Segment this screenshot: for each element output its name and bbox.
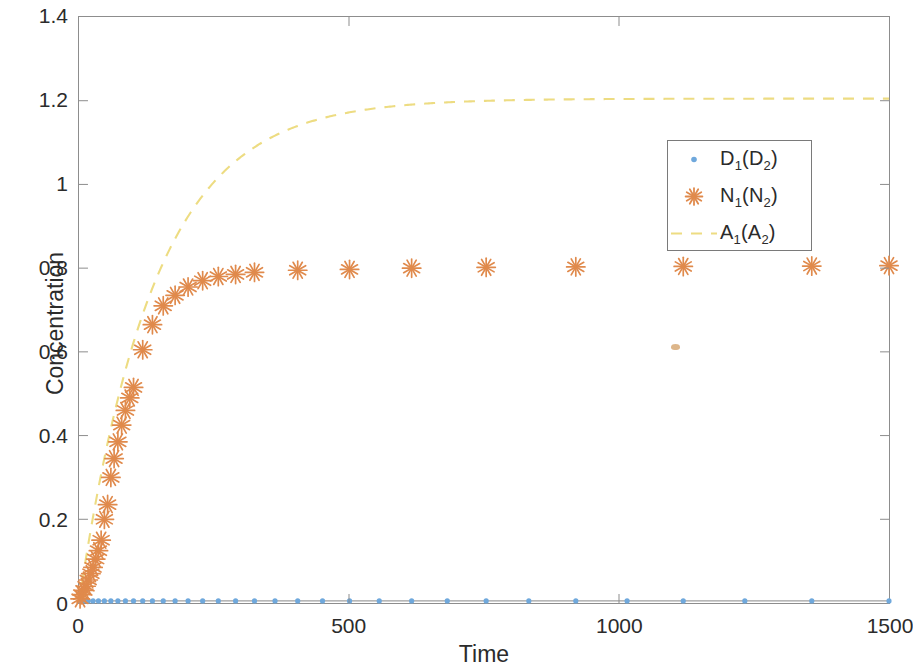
y-tick-label: 0 <box>6 593 68 614</box>
plot-area <box>78 16 890 604</box>
x-tick-label: 0 <box>72 615 84 636</box>
x-tick-label: 1000 <box>596 615 643 636</box>
x-axis-title: Time <box>78 641 890 668</box>
dashed-line-icon <box>668 215 720 252</box>
scan-smudge-artifact <box>671 344 680 350</box>
legend-item-d[interactable]: D1(D2) <box>668 141 813 178</box>
axis-tick-marks <box>79 17 889 603</box>
y-tick-label: 0.2 <box>6 509 68 530</box>
legend-label: N1(N2) <box>720 184 778 210</box>
y-tick-label: 1.4 <box>6 5 68 26</box>
x-tick-label: 500 <box>331 615 366 636</box>
series-n1n2-points <box>71 256 898 608</box>
plot-series-layer <box>79 17 889 603</box>
asterisk-icon <box>668 178 720 215</box>
y-tick-label: 1.2 <box>6 89 68 110</box>
series-d1d2-points <box>77 598 891 604</box>
y-axis-title: Concentration <box>42 174 69 474</box>
legend-label: D1(D2) <box>720 147 778 173</box>
legend-item-a[interactable]: A1(A2) <box>668 215 813 252</box>
legend-item-n[interactable]: N1(N2) <box>668 178 813 215</box>
x-tick-label: 1500 <box>867 615 913 636</box>
legend-box: D1(D2)N1(N2)A1(A2) <box>667 140 812 251</box>
legend-label: A1(A2) <box>720 221 776 247</box>
dot-icon <box>668 141 720 178</box>
